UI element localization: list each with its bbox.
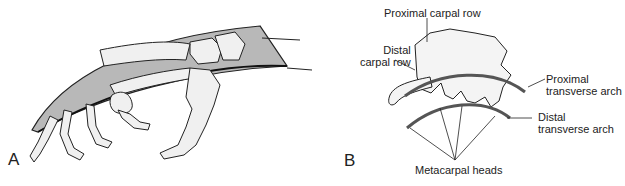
label-distal-carpal-row-line1: Distal <box>360 44 411 56</box>
panel-b-letter: B <box>344 151 355 171</box>
label-metacarpal-heads: Metacarpal heads <box>415 164 502 176</box>
panel-a-letter: A <box>8 150 19 170</box>
label-proximal-carpal-row: Proximal carpal row <box>384 7 481 19</box>
label-distal-arch-line2: transverse arch <box>538 123 614 135</box>
label-proximal-arch-line1: Proximal <box>546 73 622 85</box>
panel-b-illustration <box>389 18 545 160</box>
panel-a-illustration <box>30 26 312 162</box>
label-distal-arch-line1: Distal <box>538 111 614 123</box>
label-distal-carpal-row-line2: carpal row <box>360 56 411 68</box>
label-proximal-arch-line2: transverse arch <box>546 85 622 97</box>
label-distal-transverse-arch: Distal transverse arch <box>538 111 614 135</box>
label-proximal-transverse-arch: Proximal transverse arch <box>546 73 622 97</box>
hand-arch-diagram <box>0 0 625 186</box>
label-distal-carpal-row: Distal carpal row <box>360 44 411 68</box>
